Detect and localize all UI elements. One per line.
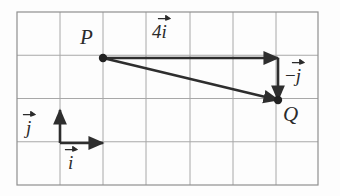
vector-label-4i: 4 i	[152, 20, 167, 41]
vector-label-minus-j-sign: −	[285, 66, 296, 85]
point-label-p: P	[80, 27, 93, 48]
basis-label-i-glyph-group: i	[68, 151, 73, 172]
vector-label-4i-glyph: i	[162, 22, 167, 41]
vector-label-4i-scalar: 4	[152, 22, 162, 41]
vector-diagram-figure: P Q 4 i − j j i	[0, 0, 340, 196]
point-marker-p	[99, 54, 107, 62]
basis-vector-arrows	[60, 110, 103, 143]
basis-label-i-glyph: i	[68, 153, 73, 172]
basis-label-j-glyph: j	[26, 118, 31, 137]
basis-label-j-glyph-group: j	[26, 116, 31, 137]
diagram-canvas	[0, 0, 340, 196]
vector-label-minus-j: − j	[285, 64, 301, 85]
vector-label-minus-j-glyph: j	[296, 66, 301, 85]
point-label-q: Q	[283, 104, 298, 125]
vector-label-4i-glyph-group: i	[162, 20, 167, 41]
vector-label-minus-j-glyph-group: j	[296, 64, 301, 85]
basis-vector-label-i: i	[68, 151, 73, 172]
basis-vector-label-j: j	[26, 116, 31, 137]
point-marker-q	[274, 96, 282, 104]
